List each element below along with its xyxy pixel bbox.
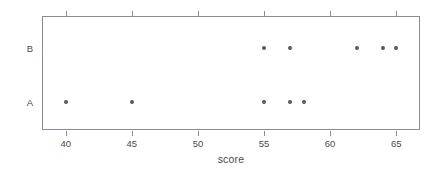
strip-chart-figure: Treatment score 404550556065 AB — [0, 0, 437, 179]
x-axis-tick — [132, 131, 133, 136]
data-point — [262, 46, 266, 50]
x-axis-tick-top — [264, 11, 265, 16]
data-point — [302, 100, 306, 104]
x-axis-tick — [198, 131, 199, 136]
x-axis-tick-top — [66, 11, 67, 16]
x-axis-tick-top — [132, 11, 133, 16]
x-axis-tick — [396, 131, 397, 136]
y-axis-tick-label-a: A — [24, 97, 36, 108]
x-axis-tick-label: 45 — [112, 138, 152, 149]
x-axis-tick-top — [198, 11, 199, 16]
x-axis-tick — [66, 131, 67, 136]
x-axis-tick-label: 65 — [376, 138, 416, 149]
data-point — [262, 100, 266, 104]
x-axis-tick-top — [330, 11, 331, 16]
x-axis-label: score — [42, 153, 420, 165]
x-axis-tick-label: 60 — [310, 138, 350, 149]
data-point — [64, 100, 68, 104]
plot-area — [42, 16, 420, 130]
y-axis-tick-label-b: B — [24, 43, 36, 54]
x-axis-tick-label: 55 — [244, 138, 284, 149]
x-axis-tick-label: 40 — [46, 138, 86, 149]
data-point — [381, 46, 385, 50]
x-axis-tick-top — [396, 11, 397, 16]
data-point — [130, 100, 134, 104]
x-axis-tick — [330, 131, 331, 136]
data-point — [355, 46, 359, 50]
x-axis-tick-label: 50 — [178, 138, 218, 149]
x-axis-tick — [264, 131, 265, 136]
